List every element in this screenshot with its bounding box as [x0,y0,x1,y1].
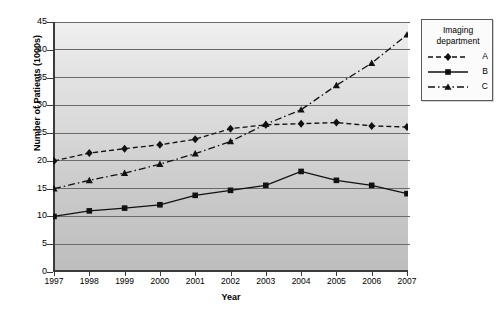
legend-label-C: C [482,81,488,91]
legend-entry-C[interactable]: C [426,80,490,94]
data-point-diamond [333,119,340,127]
data-point-square [192,193,198,199]
y-tick-label: 0 [9,266,47,276]
x-tick-label: 1997 [34,276,74,286]
x-tick-mark [266,272,267,276]
x-tick-label: 2001 [175,276,215,286]
data-point-square [228,188,234,194]
x-tick-mark [160,272,161,276]
x-tick-mark [231,272,232,276]
legend-swatch-A [426,50,470,64]
x-tick-label: 1999 [105,276,145,286]
x-tick-label: 2000 [140,276,180,286]
data-point-triangle [86,177,93,183]
y-tick-label: 15 [9,183,47,193]
x-tick-label: 2006 [352,276,392,286]
data-point-diamond [121,145,128,153]
data-point-triangle [156,161,163,167]
data-point-diamond [227,125,234,133]
x-tick-mark [372,272,373,276]
legend-swatch-C [426,80,470,94]
y-tick-mark [47,272,53,273]
data-point-triangle [298,106,305,112]
data-point-diamond [157,141,164,149]
data-point-diamond [86,149,93,157]
y-tick-label: 30 [9,99,47,109]
data-point-triangle [227,138,234,144]
data-point-square [369,183,375,189]
data-series-layer [53,22,408,272]
legend-swatch-B [426,65,470,79]
legend: Imaging department ABC [421,19,493,101]
x-tick-mark [54,272,55,276]
x-tick-mark [125,272,126,276]
legend-title-line1: Imaging [443,25,473,35]
x-tick-mark [336,272,337,276]
data-point-square [157,202,163,208]
y-axis-title: Number of Patients (1000s) [32,8,42,178]
data-point-square [445,69,451,75]
data-point-diamond [445,53,452,61]
legend-label-B: B [482,66,488,76]
chart-container: Number of Patients (1000s) Year 05101520… [0,0,503,314]
legend-title-line2: department [437,36,480,46]
data-point-square [87,208,93,214]
x-tick-mark [195,272,196,276]
legend-entry-B[interactable]: B [426,65,490,79]
data-point-square [298,169,304,175]
data-point-triangle [403,31,408,37]
x-tick-label: 2004 [281,276,321,286]
data-point-square [263,183,269,189]
series-line-B [54,171,407,216]
y-tick-label: 35 [9,72,47,82]
y-tick-label: 5 [9,238,47,248]
data-point-diamond [404,123,408,131]
y-tick-label: 10 [9,210,47,220]
data-point-diamond [368,122,375,130]
x-tick-label: 2002 [211,276,251,286]
x-axis-title: Year [53,292,409,302]
data-point-diamond [298,120,305,128]
x-tick-mark [407,272,408,276]
data-point-square [334,178,340,184]
legend-entry-A[interactable]: A [426,50,490,64]
series-line-C [54,35,407,189]
y-tick-label: 25 [9,127,47,137]
data-point-triangle [333,82,340,88]
data-point-square [404,191,408,197]
data-point-square [122,205,128,211]
series-C [53,31,408,191]
x-tick-mark [89,272,90,276]
data-point-diamond [53,157,57,165]
y-tick-label: 45 [9,16,47,26]
x-tick-label: 2007 [387,276,427,286]
legend-label-A: A [482,51,488,61]
y-tick-label: 20 [9,155,47,165]
data-point-square [53,214,57,220]
legend-title: Imaging department [422,25,494,47]
x-tick-label: 1998 [69,276,109,286]
x-tick-label: 2003 [246,276,286,286]
data-point-diamond [192,135,199,143]
y-tick-label: 40 [9,44,47,54]
x-tick-mark [301,272,302,276]
x-tick-label: 2005 [316,276,356,286]
